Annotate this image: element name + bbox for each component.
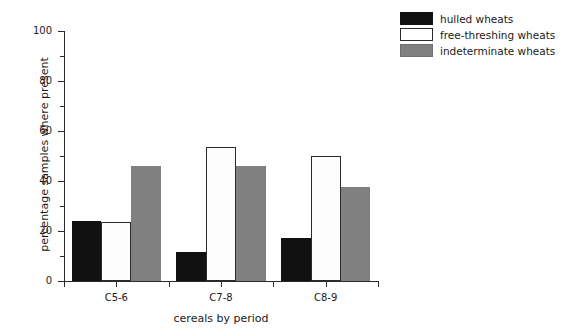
x-axis-title: cereals by period <box>64 312 378 325</box>
legend-item: hulled wheats <box>400 11 565 26</box>
legend-label: hulled wheats <box>440 13 513 25</box>
bar-c7-8-series-2 <box>236 166 266 281</box>
x-tick <box>169 281 170 287</box>
x-tick-center <box>116 281 117 287</box>
x-tick-end <box>64 281 65 287</box>
x-tick-label: C8-9 <box>314 292 337 303</box>
bar-c7-8-series-0 <box>176 252 206 281</box>
legend-swatch-icon <box>400 28 433 41</box>
bar-c8-9-series-1 <box>311 156 341 281</box>
legend-label: free-threshing wheats <box>440 29 555 41</box>
bar-chart-figure: 020406080100 C5-6C7-8C8-9 cereals by per… <box>0 0 569 336</box>
x-tick-center <box>221 281 222 287</box>
x-tick-label: C5-6 <box>105 292 128 303</box>
x-tick <box>273 281 274 287</box>
x-tick-end <box>378 281 379 287</box>
legend-item: free-threshing wheats <box>400 27 565 42</box>
legend-swatch-icon <box>400 12 433 25</box>
legend-label: indeterminate wheats <box>440 45 555 57</box>
chart-legend: hulled wheatsfree-threshing wheatsindete… <box>400 11 565 59</box>
y-axis-title: percentage samples where present <box>38 30 51 280</box>
legend-item: indeterminate wheats <box>400 43 565 58</box>
bars-layer <box>64 31 378 281</box>
bar-c5-6-series-1 <box>101 222 131 281</box>
bar-c5-6-series-2 <box>131 166 161 281</box>
bar-c8-9-series-0 <box>281 238 311 281</box>
bar-c5-6-series-0 <box>72 221 102 281</box>
x-tick-label: C7-8 <box>209 292 232 303</box>
x-tick-center <box>326 281 327 287</box>
bar-c7-8-series-1 <box>206 147 236 281</box>
legend-swatch-icon <box>400 44 433 57</box>
bar-c8-9-series-2 <box>341 187 371 281</box>
